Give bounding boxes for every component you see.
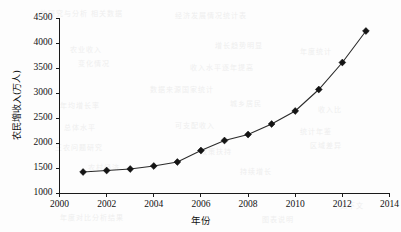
data-point-marker [174, 159, 181, 166]
y-axis-title-group: 农民增收入(万人) [11, 70, 22, 140]
x-tick-label: 2014 [368, 199, 401, 209]
x-tick-label: 2000 [38, 199, 82, 209]
y-axis-title: 农民增收入(万人) [11, 70, 22, 140]
x-tick-label: 2004 [132, 199, 176, 209]
y-tick-label: 3000 [0, 87, 53, 97]
x-tick-label: 2002 [85, 199, 129, 209]
series-markers [80, 28, 370, 176]
data-point-marker [150, 163, 157, 170]
y-tick-label: 2000 [0, 137, 53, 147]
x-tick-label: 2008 [226, 199, 270, 209]
y-tick-label: 3500 [0, 62, 53, 72]
chart-canvas: 农民增收入(万人) [0, 0, 401, 232]
x-tick-label: 2010 [273, 199, 317, 209]
data-point-marker [268, 121, 275, 128]
x-tick-label: 2012 [320, 199, 364, 209]
y-tick-label: 4500 [0, 12, 53, 22]
data-point-marker [245, 131, 252, 138]
series-line-path [83, 31, 366, 172]
y-tick-label: 4000 [0, 37, 53, 47]
y-tick-label: 2500 [0, 112, 53, 122]
data-point-marker [103, 167, 110, 174]
chart-figure: 的研究与分析 相关数据经济发展情况统计表农业收入增长趋势明显年度统计变化情况收入… [0, 0, 401, 232]
y-tick-label: 1500 [0, 162, 53, 172]
data-point-marker [221, 137, 228, 144]
data-point-marker [198, 147, 205, 154]
y-tick-label: 1000 [0, 187, 53, 197]
data-point-marker [80, 169, 87, 176]
x-axis-title: 年份 [0, 213, 401, 227]
data-point-marker [127, 166, 134, 173]
x-tick-label: 2006 [179, 199, 223, 209]
